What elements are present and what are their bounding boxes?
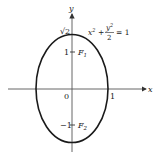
tick-x-1: 1 — [110, 92, 115, 101]
tick-origin: 0 — [64, 92, 69, 101]
tick-y-1: 1 — [64, 48, 69, 57]
focus-f1-label: F1 — [77, 48, 87, 58]
ellipse-equation: x2 + y2 2 = 1 — [88, 22, 129, 42]
svg-text:+: + — [98, 28, 104, 37]
tick-y-neg1: −1 — [60, 121, 72, 130]
svg-text:= 1: = 1 — [116, 28, 129, 37]
svg-text:x2: x2 — [88, 27, 95, 37]
svg-text:2: 2 — [107, 34, 111, 42]
tick-sqrt2: √2 — [60, 27, 70, 36]
ellipse-diagram: y x √2 1 −1 0 1 F1 F2 x2 + y2 2 = 1 — [0, 0, 158, 154]
x-axis-label: x — [148, 85, 153, 94]
focus-f2-label: F2 — [77, 121, 88, 131]
svg-text:y2: y2 — [105, 22, 113, 32]
y-axis-label: y — [68, 4, 74, 13]
